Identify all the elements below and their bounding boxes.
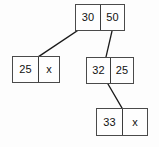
edge-right-child-to-grandchild [108, 84, 122, 108]
node-right-child-key-cell: 32 [87, 58, 111, 83]
node-grandchild: 33 x [96, 108, 148, 136]
node-right-child: 32 25 [86, 57, 134, 84]
diagram-canvas: 30 50 25 x 32 25 33 x [0, 0, 159, 147]
node-root-key-cell: 30 [76, 5, 101, 30]
node-right-child-pointer-cell: 25 [111, 58, 133, 83]
edge-root-to-right-child [106, 31, 112, 57]
node-left-child-key-cell: 25 [13, 57, 39, 82]
node-grandchild-pointer-cell: x [123, 109, 147, 135]
node-left-child-pointer-cell: x [39, 57, 59, 82]
node-left-child: 25 x [12, 56, 60, 83]
node-grandchild-key-cell: 33 [97, 109, 123, 135]
edge-root-to-left-child [38, 31, 77, 57]
node-root-pointer-cell: 50 [101, 5, 124, 30]
node-root: 30 50 [75, 4, 125, 31]
